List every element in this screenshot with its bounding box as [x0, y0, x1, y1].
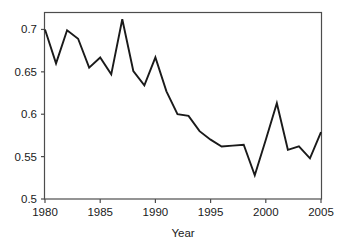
x-tick-label: 2000	[253, 206, 279, 218]
chart-figure: 0.50.550.60.650.7 1980198519901995200020…	[0, 0, 345, 245]
x-axis-title: Year	[171, 227, 194, 239]
x-tick-label: 1980	[32, 206, 58, 218]
y-tick-label: 0.55	[15, 151, 37, 163]
y-tick-label: 0.6	[21, 108, 37, 120]
x-tick-label: 2005	[308, 206, 334, 218]
x-tick-label: 1995	[198, 206, 224, 218]
y-tick-label: 0.65	[15, 66, 37, 78]
y-tick-label: 0.7	[21, 23, 37, 35]
x-tick-label: 1985	[87, 206, 113, 218]
y-tick-label: 0.5	[21, 193, 37, 205]
line-chart: 0.50.550.60.650.7 1980198519901995200020…	[0, 0, 345, 245]
x-tick-label: 1990	[143, 206, 169, 218]
